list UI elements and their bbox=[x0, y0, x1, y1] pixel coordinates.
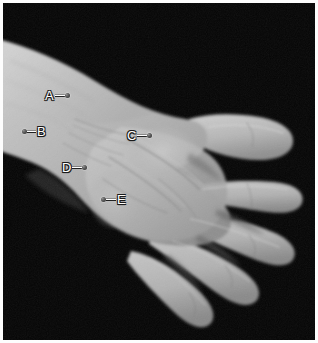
label-letter-d: D bbox=[62, 161, 71, 174]
hand-photograph bbox=[3, 3, 315, 340]
label-marker-b[interactable]: B bbox=[22, 125, 46, 138]
label-letter-b: B bbox=[37, 125, 46, 138]
label-letter-c: C bbox=[127, 129, 136, 142]
label-letter-e: E bbox=[117, 193, 126, 206]
label-marker-a[interactable]: A bbox=[45, 89, 70, 102]
marker-dot-d[interactable] bbox=[82, 165, 87, 170]
photo-plate: A B C D E bbox=[3, 3, 315, 340]
marker-dot-c[interactable] bbox=[147, 133, 152, 138]
label-letter-a: A bbox=[45, 89, 54, 102]
leader-line-b bbox=[27, 131, 36, 132]
figure-frame: A B C D E bbox=[0, 0, 318, 343]
leader-line-d bbox=[72, 167, 82, 168]
label-marker-d[interactable]: D bbox=[62, 161, 87, 174]
marker-dot-a[interactable] bbox=[65, 93, 70, 98]
label-marker-c[interactable]: C bbox=[127, 129, 152, 142]
leader-line-c bbox=[137, 135, 147, 136]
leader-line-a bbox=[55, 95, 65, 96]
label-marker-e[interactable]: E bbox=[101, 193, 126, 206]
leader-line-e bbox=[106, 199, 116, 200]
